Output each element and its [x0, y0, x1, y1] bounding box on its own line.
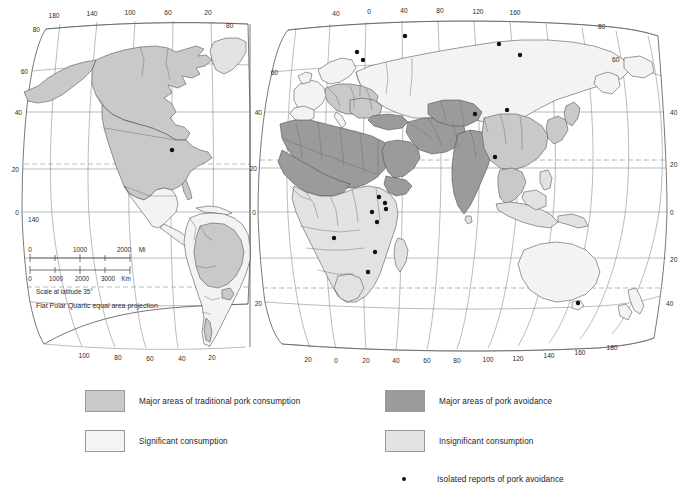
scale-mi-unit: Mi	[139, 246, 146, 253]
landmass-korea-japan	[546, 116, 568, 144]
landmass-philippines	[540, 170, 552, 190]
landmass-british-isles	[298, 72, 312, 84]
western-corner-longitude-label: 140	[28, 216, 39, 223]
western-latitude-labels-right: 80	[226, 22, 234, 29]
landmass-russia-siberia	[356, 40, 630, 124]
scale-caption: Scale at latitude 35°	[36, 288, 93, 295]
legend-label-major-pork-avoidance: Major areas of pork avoidance	[439, 397, 552, 406]
map-legend: Major areas of traditional pork consumpt…	[0, 383, 683, 465]
svg-text:20: 20	[12, 166, 20, 173]
western-longitude-labels-top: 180 140 100 60 20	[48, 9, 212, 19]
svg-text:0: 0	[367, 8, 371, 15]
svg-text:20: 20	[255, 300, 263, 307]
landmass-australia	[518, 242, 600, 302]
svg-text:140: 140	[86, 10, 97, 17]
svg-text:80: 80	[453, 357, 461, 364]
svg-text:60: 60	[146, 355, 154, 362]
landmass-turkey	[368, 114, 408, 130]
scale-km-tick-0: 0	[28, 275, 32, 282]
legend-item-major-pork-avoidance: Major areas of pork avoidance	[385, 387, 564, 415]
svg-text:20: 20	[362, 357, 370, 364]
scale-km-unit: Km	[121, 275, 131, 282]
eastern-hemisphere-panel: 40 0 40 80 120 160 80 60 60 40 40 20 20 …	[250, 7, 678, 364]
legend-label-isolated-reports: Isolated reports of pork avoidance	[437, 475, 564, 484]
svg-text:180: 180	[606, 344, 617, 351]
scale-km-tick-1000: 1000	[49, 275, 64, 282]
svg-text:40: 40	[332, 10, 340, 17]
scale-km-tick-3000: 3000	[101, 275, 116, 282]
legend-left-column: Major areas of traditional pork consumpt…	[85, 387, 300, 455]
landmass-pacific-ne	[624, 56, 654, 78]
svg-text:40: 40	[255, 109, 263, 116]
svg-text:0: 0	[670, 209, 674, 216]
landmass-china	[482, 114, 548, 170]
svg-text:160: 160	[574, 349, 585, 356]
landmass-florida	[182, 180, 192, 200]
scale-mi-tick-0: 0	[28, 246, 32, 253]
svg-text:60: 60	[21, 68, 29, 75]
svg-text:20: 20	[670, 161, 678, 168]
landmass-alaska	[24, 60, 96, 103]
legend-swatch-major-pork-avoidance	[385, 390, 425, 412]
scale-km-tick-2000: 2000	[75, 275, 90, 282]
svg-text:60: 60	[612, 56, 620, 63]
landmass-sri-lanka	[465, 216, 472, 224]
landmass-scandinavia	[318, 58, 356, 84]
landmass-kamchatka	[594, 72, 620, 94]
svg-text:20: 20	[208, 354, 216, 361]
western-longitude-labels-bottom: 100 80 60 40 20	[78, 352, 216, 362]
svg-text:100: 100	[78, 352, 89, 359]
svg-text:20: 20	[204, 9, 212, 16]
legend-swatch-insignificant-consumption	[385, 430, 425, 452]
map-canvas: 180 140 100 60 20 80 60 40 20 0 140 80 1…	[0, 0, 683, 383]
svg-text:40: 40	[670, 109, 678, 116]
landmass-iberia	[290, 106, 314, 122]
legend-label-major-pork-consumption: Major areas of traditional pork consumpt…	[139, 397, 300, 406]
svg-text:80: 80	[598, 23, 606, 30]
landmass-greenland	[210, 38, 246, 74]
legend-swatch-significant-consumption	[85, 430, 125, 452]
legend-item-significant-consumption: Significant consumption	[85, 427, 300, 455]
svg-text:60: 60	[423, 357, 431, 364]
landmass-madagascar	[394, 238, 408, 272]
svg-text:80: 80	[33, 26, 41, 33]
svg-text:120: 120	[512, 355, 523, 362]
svg-text:60: 60	[271, 69, 279, 76]
scale-mi-tick-2000: 2000	[117, 246, 132, 253]
landmass-indochina	[498, 168, 526, 204]
svg-text:80: 80	[226, 22, 234, 29]
legend-item-insignificant-consumption: Insignificant consumption	[385, 427, 564, 455]
landmass-arabia	[382, 140, 420, 178]
landmass-italy	[334, 112, 346, 128]
svg-text:60: 60	[164, 9, 172, 16]
legend-right-column: Major areas of pork avoidance Insignific…	[385, 387, 564, 488]
svg-text:40: 40	[178, 355, 186, 362]
svg-text:160: 160	[509, 9, 520, 16]
landmass-japan	[564, 102, 580, 126]
svg-text:0: 0	[252, 209, 256, 216]
legend-dot-icon	[385, 477, 423, 481]
svg-text:180: 180	[48, 12, 59, 19]
svg-text:20: 20	[670, 256, 678, 263]
isolated-report-dot	[170, 148, 174, 152]
svg-text:40: 40	[400, 7, 408, 14]
landmass-indonesia	[496, 202, 558, 228]
svg-text:0: 0	[334, 357, 338, 364]
legend-item-isolated-reports: Isolated reports of pork avoidance	[385, 465, 564, 488]
legend-label-significant-consumption: Significant consumption	[139, 437, 228, 446]
legend-swatch-major-pork-consumption	[85, 390, 125, 412]
eastern-longitude-labels-top: 40 0 40 80 120 160	[332, 7, 520, 17]
projection-note: Flat Polar Quartic equal area projection	[36, 300, 166, 311]
svg-text:40: 40	[392, 357, 400, 364]
svg-text:20: 20	[304, 356, 312, 363]
legend-item-major-pork-consumption: Major areas of traditional pork consumpt…	[85, 387, 300, 415]
eastern-longitude-labels-bottom: 20 0 20 40 60 80 100 120 140 160 180	[304, 344, 617, 364]
svg-text:40: 40	[15, 109, 23, 116]
svg-text:40: 40	[666, 300, 674, 307]
landmass-new-guinea	[558, 214, 588, 228]
svg-text:80: 80	[114, 354, 122, 361]
scale-bar-group: 0 1000 2000 Mi 0 1000 2000 3000 Km Scale…	[28, 246, 145, 295]
legend-label-insignificant-consumption: Insignificant consumption	[439, 437, 533, 446]
svg-text:20: 20	[250, 165, 258, 172]
svg-text:100: 100	[482, 356, 493, 363]
